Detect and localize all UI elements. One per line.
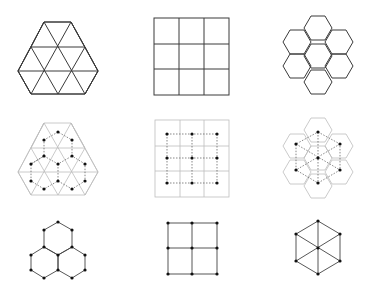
square-with-square-dual: [155, 120, 229, 197]
hexagonal-graph: [29, 220, 86, 279]
square-tiling: [154, 18, 229, 95]
triangular-tiling: [18, 22, 98, 94]
square-grid-graph: [166, 221, 218, 275]
hexagonal-with-triangular-dual: [283, 118, 353, 198]
hexagonal-tiling: [283, 16, 353, 94]
triangular-wheel-graph: [294, 219, 341, 275]
triangular-with-hexagonal-dual: [18, 123, 98, 195]
tessellation-diagram: [0, 0, 375, 297]
